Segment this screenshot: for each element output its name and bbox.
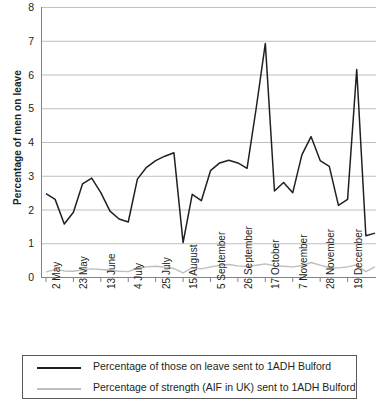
y-tick-label: 2 <box>8 205 34 215</box>
gridlines <box>41 8 376 244</box>
x-tick-label: 2 May <box>51 262 62 289</box>
y-tick-label: 6 <box>8 70 34 80</box>
x-tick-label: 15 August <box>188 245 199 289</box>
y-tick-label: 8 <box>8 2 34 12</box>
x-tick-label: 4 July <box>133 263 144 289</box>
x-tick-label: 5 September <box>216 232 227 289</box>
y-tick-label: 1 <box>8 238 34 248</box>
legend-label-strength: Percentage of strength (AIF in UK) sent … <box>93 381 356 393</box>
y-tick-label: 5 <box>8 103 34 113</box>
legend-swatch-black <box>37 367 81 369</box>
x-tick-label: 26 September <box>243 226 254 289</box>
legend-entry-on-leave: Percentage of those on leave sent to 1AD… <box>23 356 356 378</box>
y-tick-label: 0 <box>8 272 34 282</box>
legend-entry-strength: Percentage of strength (AIF in UK) sent … <box>23 377 356 399</box>
x-tick-label: 17 October <box>270 240 281 289</box>
chart-legend: Percentage of those on leave sent to 1AD… <box>22 355 357 399</box>
x-tick-label: 25 July <box>161 257 172 289</box>
y-tick-label: 3 <box>8 171 34 181</box>
x-tick-label: 19 December <box>353 229 364 289</box>
x-tick-label: 7 November <box>298 235 309 289</box>
x-tick-label: 28 November <box>325 229 336 289</box>
chart-figure: Percentage of men on leave 012345678 2 M… <box>0 0 379 409</box>
y-tick-label: 7 <box>8 36 34 46</box>
x-tick-label: 13 June <box>106 253 117 289</box>
y-tick-label: 4 <box>8 137 34 147</box>
legend-label-on-leave: Percentage of those on leave sent to 1AD… <box>93 360 331 372</box>
legend-swatch-grey <box>37 388 81 390</box>
series-line-on-leave <box>46 43 375 242</box>
x-tick-label: 23 May <box>78 256 89 289</box>
